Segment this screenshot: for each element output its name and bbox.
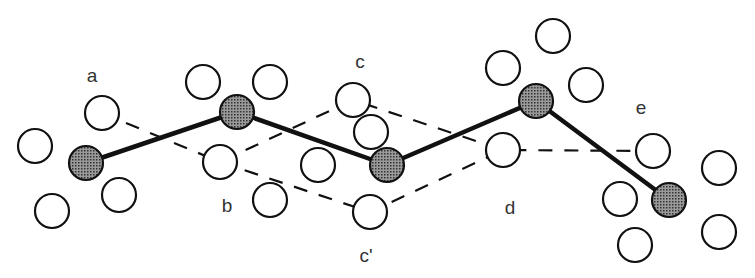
open-atom-circle (336, 83, 370, 117)
shaded-atom-circle (69, 146, 103, 180)
open-atom-circle (354, 115, 388, 149)
open-atom-circle (85, 96, 119, 130)
open-atom-circle (536, 19, 570, 53)
open-atom-circle (203, 145, 237, 179)
open-atom-circle (253, 183, 287, 217)
shaded-atom-circle (519, 84, 553, 118)
open-atom-circle (486, 133, 520, 167)
diagram-canvas: abcc'de (0, 0, 755, 278)
open-atom-circle (618, 228, 652, 262)
open-atom-circle (702, 215, 736, 249)
label-c: c (355, 51, 365, 72)
open-atom-circle (301, 148, 335, 182)
open-atom-circle (569, 68, 603, 102)
open-atoms (18, 19, 736, 262)
open-atom-circle (102, 178, 136, 212)
label-b: b (222, 195, 233, 216)
open-atom-circle (636, 134, 670, 168)
open-atom-circle (253, 65, 287, 99)
open-atom-circle (18, 129, 52, 163)
label-a: a (87, 65, 98, 86)
open-atom-circle (486, 51, 520, 85)
open-atom-circle (353, 195, 387, 229)
open-atom-circle (35, 194, 69, 228)
open-atom-circle (603, 182, 637, 216)
label-e: e (636, 97, 647, 118)
label-c-prime: c' (359, 245, 372, 266)
open-atom-circle (186, 65, 220, 99)
molecular-chain-diagram: abcc'de (0, 0, 755, 278)
shaded-atom-circle (652, 183, 686, 217)
open-atom-circle (702, 151, 736, 185)
shaded-atom-circle (370, 148, 404, 182)
shaded-atom-circle (220, 95, 254, 129)
label-d: d (505, 197, 516, 218)
